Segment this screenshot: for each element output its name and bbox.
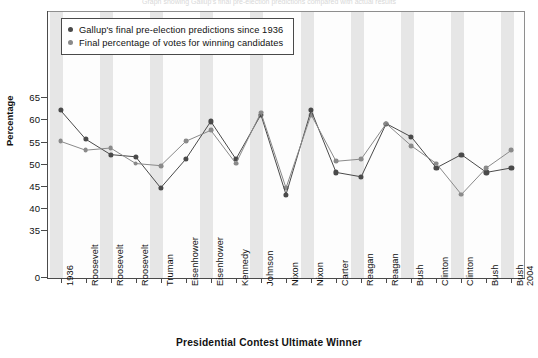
y-axis-labels: 035404550556065: [0, 0, 40, 358]
x-axis-tick: [511, 278, 512, 283]
legend-item-final-votes: Final percentage of votes for winning ca…: [68, 36, 283, 49]
y-axis-tick: [41, 230, 47, 231]
data-point: [409, 143, 414, 148]
top-caption-strip: Graph showing Gallup's final pre-electio…: [0, 0, 538, 9]
x-axis-tick: [161, 278, 162, 283]
x-axis-tick-label: Reagan: [365, 253, 375, 286]
background-stripe: [451, 12, 464, 278]
x-axis-tick: [61, 278, 62, 283]
y-axis-title: Percentage: [4, 95, 15, 146]
y-axis-tick-label: 35: [2, 225, 40, 236]
legend-label-predictions: Gallup's final pre-election predictions …: [79, 25, 283, 35]
x-axis-tick-label: Bush: [415, 265, 425, 286]
data-point: [183, 139, 188, 144]
x-axis-tick: [361, 278, 362, 283]
legend-dot-icon: [68, 40, 73, 45]
x-axis-tick-label: Roosevelt: [90, 244, 100, 286]
x-axis-tick-label: Reagan: [390, 253, 400, 286]
top-caption-text: Graph showing Gallup's final pre-electio…: [0, 0, 538, 6]
x-axis-tick-label: Clinton: [465, 257, 475, 286]
x-axis-tick-label: 1936: [65, 265, 75, 286]
x-axis-tick-label: Bush: [515, 265, 525, 286]
x-axis-tick: [261, 278, 262, 283]
x-axis-tick: [386, 278, 387, 283]
background-stripe: [351, 12, 364, 278]
data-point: [233, 161, 238, 166]
y-axis-tick-label: 50: [2, 159, 40, 170]
y-axis-tick-label: 40: [2, 203, 40, 214]
x-axis-tick: [311, 278, 312, 283]
y-axis-tick: [41, 142, 47, 143]
x-axis-tick: [486, 278, 487, 283]
data-point: [434, 161, 439, 166]
data-point: [334, 159, 339, 164]
x-axis-title: Presidential Contest Ultimate Winner: [0, 337, 538, 348]
x-axis-tick: [436, 278, 437, 283]
background-stripe: [501, 12, 514, 278]
data-point: [58, 139, 63, 144]
x-axis-tick-label: Nixon: [315, 262, 325, 286]
x-axis-tick-label-year: 2004: [525, 266, 535, 286]
data-point: [284, 185, 289, 190]
legend-item-predictions: Gallup's final pre-election predictions …: [68, 23, 283, 36]
y-axis-tick: [41, 119, 47, 120]
data-point: [158, 163, 163, 168]
data-point: [133, 161, 138, 166]
x-axis-tick: [411, 278, 412, 283]
x-axis-tick-label: Bush: [490, 265, 500, 286]
x-axis-tick-label: Johnson: [265, 251, 275, 286]
legend-label-final-votes: Final percentage of votes for winning ca…: [79, 38, 283, 48]
data-point: [509, 148, 514, 153]
x-axis-tick-label: Eisenhower: [190, 237, 200, 286]
data-point: [108, 146, 113, 151]
y-axis-tick: [41, 186, 47, 187]
chart-page: Graph showing Gallup's final pre-electio…: [0, 0, 538, 358]
y-axis-tick: [41, 277, 47, 278]
y-axis-tick: [41, 164, 47, 165]
y-axis-tick-label: 0: [2, 272, 40, 283]
y-axis-tick-label: 45: [2, 181, 40, 192]
x-axis-tick-label: Carter: [340, 260, 350, 286]
x-axis-tick-label: Nixon: [290, 262, 300, 286]
x-axis-tick: [186, 278, 187, 283]
x-axis-tick: [136, 278, 137, 283]
data-point: [484, 166, 489, 171]
background-stripe: [301, 12, 314, 278]
y-axis-tick: [41, 97, 47, 98]
x-axis-tick: [286, 278, 287, 283]
y-axis-tick: [41, 208, 47, 209]
x-axis-tick-label: Truman: [165, 254, 175, 286]
data-point: [459, 192, 464, 197]
x-axis-tick-label: Kennedy: [240, 249, 250, 286]
x-axis-tick: [236, 278, 237, 283]
chart-legend: Gallup's final pre-election predictions …: [61, 18, 294, 55]
x-axis-tick: [111, 278, 112, 283]
x-axis-tick-label: Eisenhower: [215, 237, 225, 286]
x-axis-tick: [86, 278, 87, 283]
x-axis-tick-label: Roosevelt: [140, 244, 150, 286]
x-axis-tick: [336, 278, 337, 283]
data-point: [384, 121, 389, 126]
legend-dot-icon: [68, 27, 73, 32]
x-axis-tick: [211, 278, 212, 283]
data-point: [309, 112, 314, 117]
x-axis-tick-label: Clinton: [440, 257, 450, 286]
x-axis-tick-label: Roosevelt: [115, 244, 125, 286]
y-axis-line: [47, 11, 48, 279]
chart-frame: Gallup's final pre-election predictions …: [47, 11, 525, 279]
data-point: [359, 157, 364, 162]
data-point: [259, 110, 264, 115]
data-point: [208, 128, 213, 133]
data-point: [83, 148, 88, 153]
x-axis-tick: [461, 278, 462, 283]
